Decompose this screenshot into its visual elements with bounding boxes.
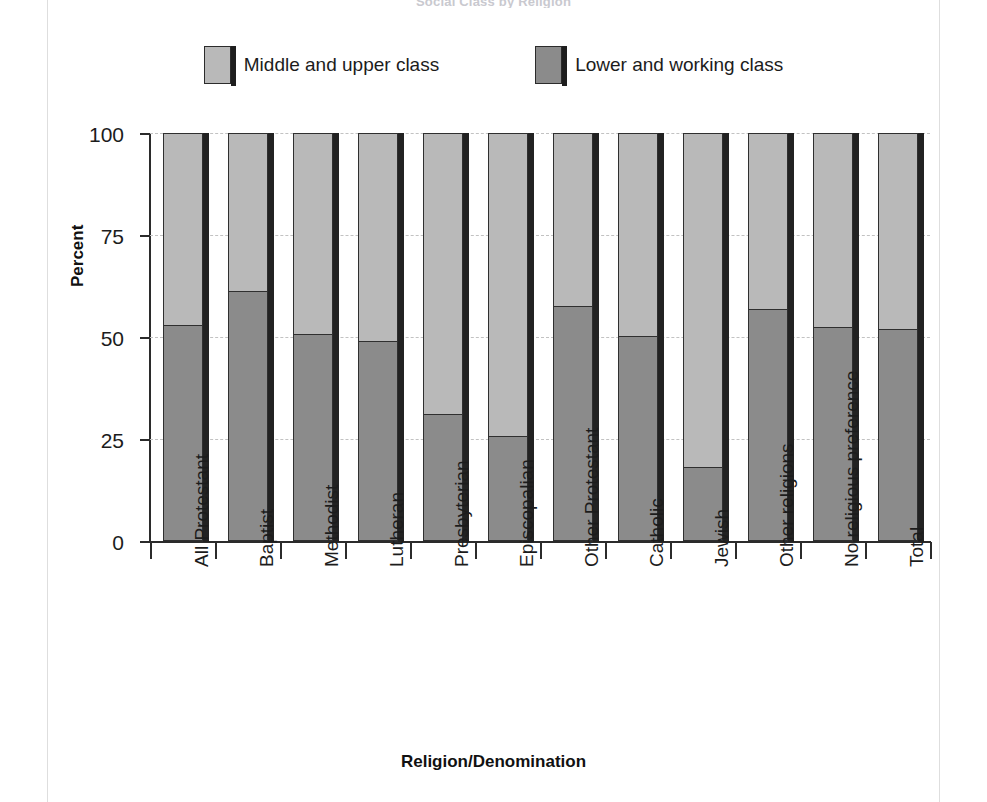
x-category-label: Episcopalian <box>516 459 538 567</box>
bar-group[interactable] <box>683 133 723 541</box>
y-tick-label: 75 <box>101 225 124 249</box>
x-category-label: Lutheran <box>386 492 408 567</box>
x-tick-mark <box>345 542 347 559</box>
legend-item-middle-upper: Middle and upper class <box>204 46 439 84</box>
page-rule-left <box>47 0 48 802</box>
page-rule-right <box>939 0 940 802</box>
bar-group[interactable] <box>878 133 918 541</box>
x-tick-mark <box>410 542 412 559</box>
legend-swatch-upper-icon <box>204 46 231 84</box>
x-tick-mark <box>800 542 802 559</box>
y-tick-label: 25 <box>101 429 124 453</box>
bar-segment-lower-working[interactable] <box>879 329 917 540</box>
bar-group[interactable] <box>618 133 658 541</box>
y-tick-mark: 75 <box>140 235 150 237</box>
bar-group[interactable] <box>228 133 268 541</box>
x-tick-mark <box>605 542 607 559</box>
bar-segment-middle-upper[interactable] <box>878 133 918 541</box>
x-tick-mark <box>475 542 477 559</box>
x-category-label: All Protestant <box>191 454 213 567</box>
x-category-label: Methodist <box>321 485 343 567</box>
bar-segment-middle-upper[interactable] <box>228 133 268 541</box>
plot-area: 0255075100 All ProtestantBaptistMethodis… <box>150 133 930 541</box>
chart-legend: Middle and upper class Lower and working… <box>0 44 987 86</box>
y-tick-label: 50 <box>101 327 124 351</box>
y-tick-label: 0 <box>112 531 124 555</box>
chart-title-clipped: Social Class by Religion <box>0 0 987 8</box>
x-category-label: Other religions <box>776 443 798 567</box>
bar-segment-middle-upper[interactable] <box>293 133 333 541</box>
y-axis-title: Percent <box>68 225 88 287</box>
y-tick-mark: 50 <box>140 337 150 339</box>
y-tick-mark: 100 <box>140 133 150 135</box>
x-tick-mark <box>865 542 867 559</box>
bar-segment-middle-upper[interactable] <box>618 133 658 541</box>
x-tick-mark <box>930 542 932 559</box>
bar-segment-middle-upper[interactable] <box>358 133 398 541</box>
x-category-label: Other Protestant <box>581 428 603 567</box>
y-tick-label: 100 <box>89 123 124 147</box>
y-tick-mark: 0 <box>140 541 150 543</box>
x-category-label: Total <box>906 527 928 567</box>
x-tick-mark <box>150 542 152 559</box>
legend-label-middle-upper: Middle and upper class <box>244 54 439 76</box>
legend-item-lower-working: Lower and working class <box>535 46 783 84</box>
legend-swatch-lower-icon <box>535 46 562 84</box>
bar-group[interactable] <box>293 133 333 541</box>
x-tick-mark <box>735 542 737 559</box>
bar-segment-lower-working[interactable] <box>229 291 267 540</box>
x-tick-mark <box>215 542 217 559</box>
x-tick-mark <box>540 542 542 559</box>
x-category-label: No religious preference <box>841 371 863 567</box>
bar-group[interactable] <box>358 133 398 541</box>
x-category-label: Baptist <box>256 509 278 567</box>
x-category-label: Jewish <box>711 509 733 567</box>
y-tick-mark: 25 <box>140 439 150 441</box>
x-category-label: Catholic <box>646 498 668 567</box>
legend-label-lower-working: Lower and working class <box>575 54 783 76</box>
x-tick-mark <box>280 542 282 559</box>
bar-segment-middle-upper[interactable] <box>683 133 723 541</box>
x-category-label: Presbyterian <box>451 460 473 567</box>
bar-series-group <box>150 133 930 541</box>
chart-page: Social Class by Religion Middle and uppe… <box>0 0 987 802</box>
x-tick-mark <box>670 542 672 559</box>
x-axis-title: Religion/Denomination <box>0 752 987 772</box>
